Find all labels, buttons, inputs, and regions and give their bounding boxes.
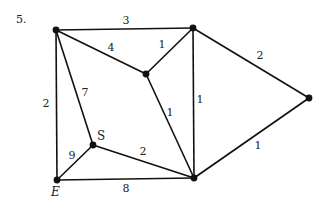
node-TL	[53, 27, 60, 34]
edge-weight-label: 7	[82, 86, 89, 99]
edge-weight-label: 1	[255, 139, 262, 152]
graph-edges	[56, 28, 309, 180]
edge-weight-label: 3	[123, 14, 130, 27]
node-S	[90, 142, 97, 149]
edge-weight-label: 1	[159, 38, 166, 51]
edge-weight-label: 1	[197, 93, 204, 106]
edge-TR-BR	[193, 28, 194, 178]
edge-C-BR	[146, 74, 194, 178]
edge-E-BR	[57, 178, 194, 180]
graph-nodes	[53, 25, 313, 184]
edge-weights: 341211272981	[43, 14, 264, 195]
node-TR	[190, 25, 197, 32]
problem-number: 5.	[16, 13, 27, 26]
edge-TR-R	[193, 28, 309, 98]
node-label-E: E	[50, 185, 60, 199]
edge-TL-TR	[56, 28, 193, 30]
edge-weight-label: 1	[167, 106, 174, 119]
node-C	[143, 71, 150, 78]
edge-TL-C	[56, 30, 146, 74]
node-BR	[191, 175, 198, 182]
node-R	[306, 95, 313, 102]
edge-weight-label: 8	[123, 182, 130, 195]
edge-weight-label: 2	[140, 145, 147, 158]
node-E	[54, 177, 61, 184]
edge-weight-label: 9	[69, 149, 76, 162]
node-labels: SE	[50, 129, 105, 199]
edge-weight-label: 4	[108, 41, 115, 54]
node-label-S: S	[97, 129, 105, 143]
weighted-graph-diagram: 5. 341211272981 SE	[0, 0, 329, 201]
edge-BR-R	[194, 98, 309, 178]
edge-weight-label: 2	[43, 97, 50, 110]
edge-weight-label: 2	[257, 49, 264, 62]
edge-TL-E	[56, 30, 57, 180]
edge-TR-C	[146, 28, 193, 74]
